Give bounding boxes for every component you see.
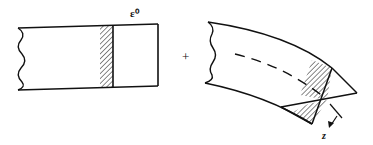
straight-beam bbox=[18, 24, 158, 90]
plus-operator: + bbox=[182, 49, 189, 64]
curved-beam bbox=[205, 22, 357, 128]
break-line-left bbox=[18, 28, 25, 90]
hatched-cross-section bbox=[100, 25, 113, 87]
beam-top-edge bbox=[18, 24, 158, 28]
break-line-right bbox=[205, 22, 216, 83]
diagram-canvas: ε⁰ + z bbox=[0, 0, 373, 145]
beam-bottom-edge bbox=[18, 86, 158, 90]
epsilon-zero-label: ε⁰ bbox=[130, 7, 140, 19]
z-axis-label: z bbox=[321, 130, 326, 141]
rotated-section-upper bbox=[332, 68, 357, 93]
z-axis-line bbox=[330, 104, 342, 118]
